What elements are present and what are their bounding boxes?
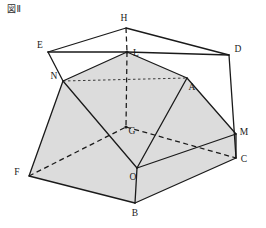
edge-L-D xyxy=(127,52,229,55)
edge-H-D xyxy=(126,28,229,55)
vertex-dot-G xyxy=(124,125,127,128)
vertex-dot-L xyxy=(125,50,128,53)
edge-E-N xyxy=(48,52,63,81)
geometry-diagram xyxy=(0,0,266,228)
figure-container: 図Ⅱ xyxy=(0,0,266,228)
edge-H-L-hidden xyxy=(126,28,127,52)
edge-E-H xyxy=(48,28,126,52)
